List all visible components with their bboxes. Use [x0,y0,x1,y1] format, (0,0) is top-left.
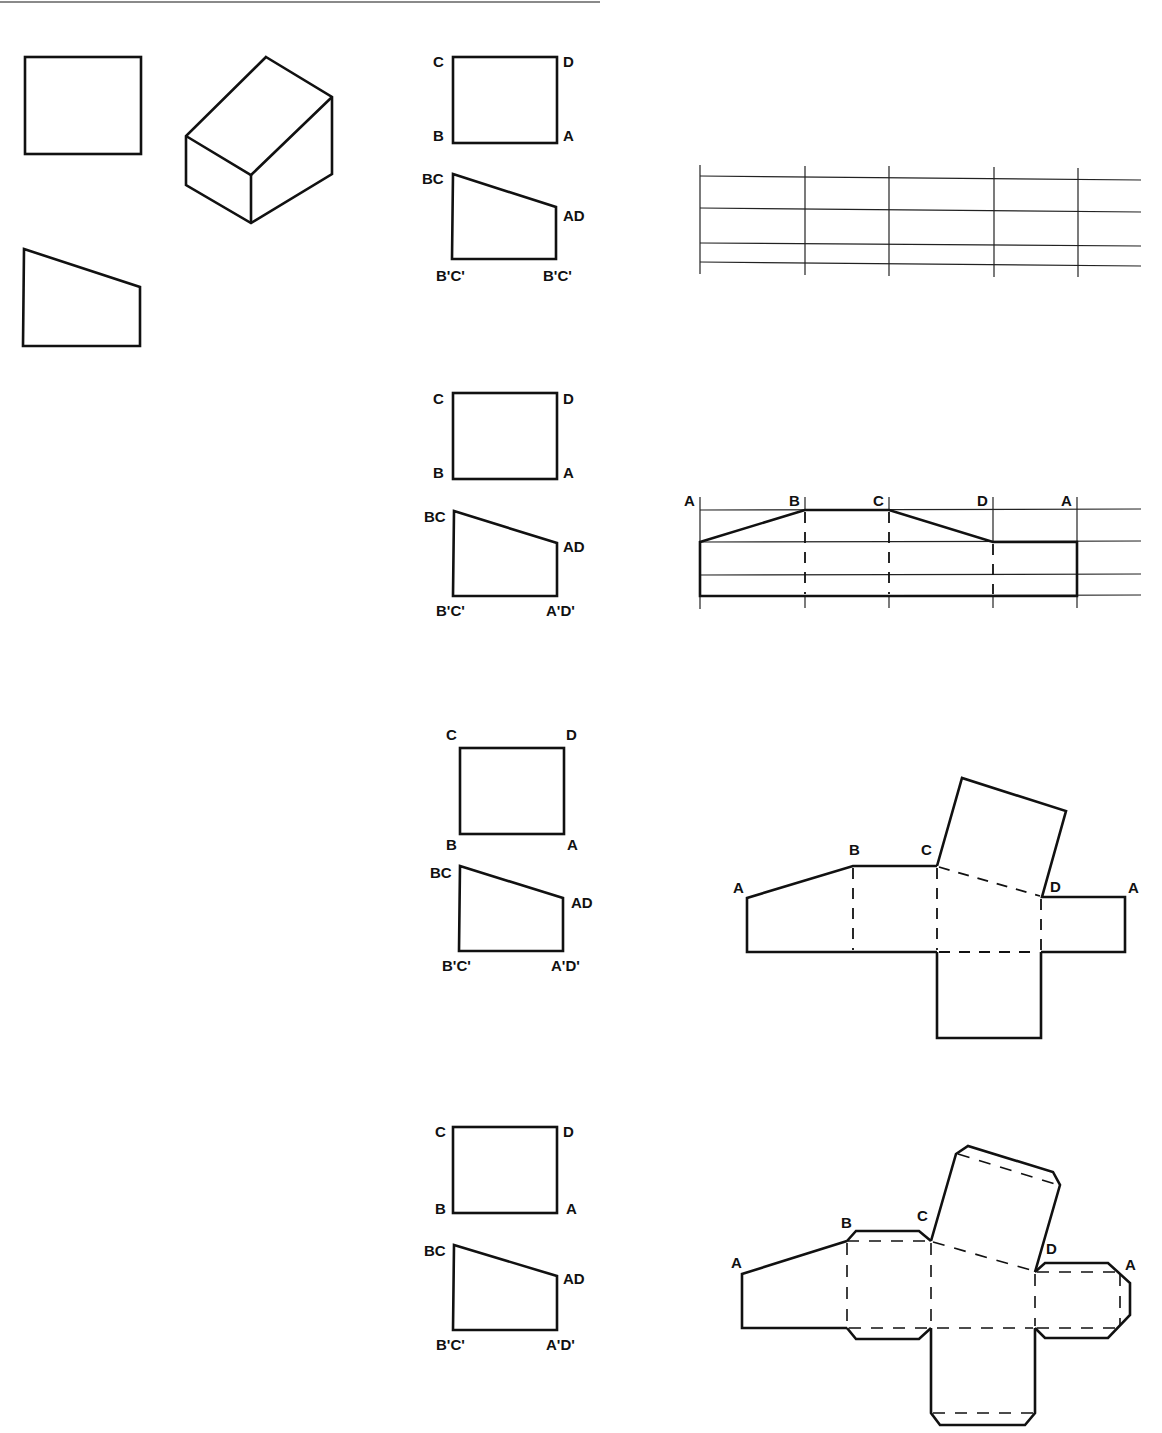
front-view [453,511,557,596]
front-view [452,174,556,259]
label-ad-prime: A'D' [546,602,575,619]
label-d: D [563,53,574,70]
label-bc-prime: B'C' [436,1336,465,1353]
drawing-canvas: C D B A BC AD B'C' B'C' C D B A BC AD B'… [0,0,1162,1433]
label-a-left: A [733,879,744,896]
isometric-block [186,57,332,223]
label-bc: BC [422,170,444,187]
label-bc-prime: B'C' [436,602,465,619]
label-ad: AD [571,894,593,911]
step-4: C D B A BC AD B'C' A'D' [424,1123,1136,1425]
stretchout-grid [700,165,1141,277]
label-c: C [921,841,932,858]
top-view [453,57,557,143]
label-c: C [446,726,457,743]
label-a: A [563,464,574,481]
step-1: C D B A BC AD B'C' B'C' [422,53,1141,284]
given-views [23,57,332,346]
label-d: D [566,726,577,743]
label-b: B [841,1214,852,1231]
label-a-right: A [1125,1256,1136,1273]
top-view-rectangle [25,57,141,154]
label-bc: BC [424,508,446,525]
label-c: C [873,492,884,509]
front-view [459,866,563,951]
label-b: B [849,841,860,858]
front-view-trapezoid [23,249,140,346]
label-a: A [684,492,695,509]
label-a-right: A [1128,879,1139,896]
step-2: C D B A BC AD B'C' A'D' A B C [424,390,1141,619]
label-ad: AD [563,538,585,555]
pattern [747,778,1125,1038]
label-b: B [433,464,444,481]
label-a-left: A [731,1254,742,1271]
label-ad: AD [563,207,585,224]
label-a-end: A [1061,492,1072,509]
label-a: A [567,836,578,853]
step-3: C D B A BC AD B'C' A'D' A B C D A [430,726,1139,1038]
label-d: D [977,492,988,509]
label-d: D [1046,1240,1057,1257]
label-a: A [563,127,574,144]
label-c: C [433,53,444,70]
label-c: C [435,1123,446,1140]
label-d: D [563,1123,574,1140]
front-view [453,1245,557,1330]
label-c: C [917,1207,928,1224]
label-d: D [1050,878,1061,895]
label-b: B [433,127,444,144]
label-d: D [563,390,574,407]
label-b: B [435,1200,446,1217]
label-ad: AD [563,1270,585,1287]
label-bc: BC [430,864,452,881]
pattern-with-tabs [742,1146,1130,1425]
stretchout-construction [700,497,1141,609]
label-b: B [446,836,457,853]
top-view [453,393,557,479]
top-view [453,1127,557,1213]
label-c: C [433,390,444,407]
label-b: B [789,492,800,509]
label-bc: BC [424,1242,446,1259]
label-a: A [566,1200,577,1217]
label-bc-prime: B'C' [442,957,471,974]
label-ad-prime: A'D' [546,1336,575,1353]
label-bc-prime-right: B'C' [543,267,572,284]
top-view [460,748,564,834]
label-ad-prime: A'D' [551,957,580,974]
label-bc-prime: B'C' [436,267,465,284]
